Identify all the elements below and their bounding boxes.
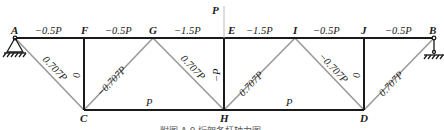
- node-label-D: D: [359, 112, 368, 124]
- node-label-G: G: [149, 24, 157, 36]
- node-label-B: B: [428, 24, 436, 36]
- figure-caption: 附图 A.9 桁架各杆轴力图: [160, 125, 261, 130]
- load-label: P: [212, 4, 219, 16]
- force-CG: −0.707P: [95, 64, 129, 99]
- force-ID: −0.707P: [317, 51, 351, 86]
- node-label-I: I: [292, 24, 298, 36]
- force-FG: −0.5P: [105, 25, 132, 36]
- vertical-members: [84, 38, 364, 110]
- node-label-A: A: [10, 24, 18, 36]
- force-CH: P: [145, 97, 153, 108]
- force-JD: 0: [351, 72, 362, 78]
- node-label-C: C: [80, 112, 88, 124]
- truss-axial-force-diagram: P A F G E I J B C H D −0.5P −0.5P −1.5P …: [0, 0, 444, 130]
- node-label-F: F: [80, 24, 89, 36]
- force-JB: −0.5P: [385, 25, 412, 36]
- node-label-H: H: [219, 112, 229, 124]
- force-HI: 0.707P: [237, 69, 266, 99]
- force-GE: −1.5P: [174, 25, 201, 36]
- roller-support-icon: [424, 36, 444, 59]
- force-FC: 0: [71, 72, 82, 78]
- force-EI: −1.5P: [246, 25, 273, 36]
- force-HD: P: [285, 97, 293, 108]
- force-DB: 0.707P: [377, 69, 406, 99]
- node-label-J: J: [360, 24, 367, 36]
- force-EH: −P: [211, 68, 222, 82]
- node-label-E: E: [227, 24, 235, 36]
- force-AF: −0.5P: [35, 25, 62, 36]
- force-IJ: −0.5P: [313, 25, 340, 36]
